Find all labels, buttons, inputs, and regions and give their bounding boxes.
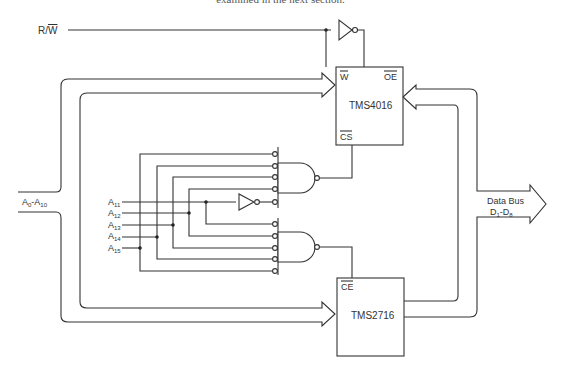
nand-gate-rom-select — [273, 218, 352, 278]
rw-signal: R/W — [38, 20, 364, 67]
svg-text:TMS2716: TMS2716 — [351, 310, 395, 321]
tms2716-chip: CE TMS2716 — [337, 278, 404, 356]
svg-text:TMS4016: TMS4016 — [349, 100, 393, 111]
decoder-wiring — [122, 154, 275, 271]
nand-gate-ram-select — [273, 145, 352, 208]
svg-text:CS: CS — [340, 132, 353, 142]
svg-text:W: W — [340, 72, 349, 82]
inverter-icon — [239, 194, 254, 210]
svg-text:A0-A10: A0-A10 — [22, 197, 48, 208]
svg-text:A14: A14 — [108, 231, 121, 242]
inverter-icon — [339, 20, 352, 40]
memory-decoder-circuit: R/W W OE TMS4016 CS CE TMS2716 A0-A10 Da… — [0, 0, 561, 372]
svg-text:A13: A13 — [108, 220, 121, 231]
svg-text:OE: OE — [384, 72, 397, 82]
tms4016-chip: W OE TMS4016 CS — [336, 67, 403, 145]
svg-text:CE: CE — [341, 282, 354, 292]
data-bus: Data Bus D1-D8 — [403, 85, 546, 317]
svg-text:D1-D8: D1-D8 — [490, 207, 513, 218]
svg-text:A12: A12 — [108, 208, 121, 219]
address-labels: A11 A12 A13 A14 A15 — [108, 197, 121, 254]
svg-text:R/W: R/W — [38, 25, 58, 36]
svg-text:A15: A15 — [108, 243, 121, 254]
svg-text:Data Bus: Data Bus — [487, 196, 525, 206]
svg-text:A11: A11 — [108, 197, 121, 208]
address-bus: A0-A10 — [18, 73, 335, 326]
